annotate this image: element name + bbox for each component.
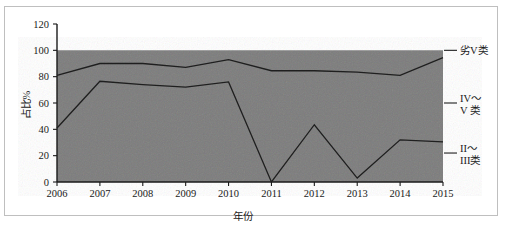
x-tick-labels: 2006200720082009201020112012201320142015 (47, 188, 454, 199)
x-tick-label: 2011 (261, 188, 282, 199)
legend-label-liev: 劣V类 (460, 44, 489, 56)
x-tick-label: 2014 (390, 188, 412, 199)
chart-figure: 020406080100120 200620072008200920102011… (0, 0, 506, 228)
legend-label-iv-v-line1: IV～ (460, 93, 482, 104)
x-axis-title: 年份 (233, 210, 254, 222)
y-axis-title: 占比% (20, 90, 32, 119)
x-tick-label: 2010 (218, 188, 239, 199)
area-chart: 020406080100120 200620072008200920102011… (0, 0, 506, 228)
x-tick-label: 2012 (304, 188, 325, 199)
x-tick-label: 2009 (175, 188, 196, 199)
x-tick-label: 2006 (47, 188, 68, 199)
y-tick-label: 120 (33, 19, 49, 30)
y-tick-labels: 020406080100120 (33, 19, 49, 188)
x-tick-label: 2013 (347, 188, 368, 199)
x-tick-label: 2007 (89, 188, 110, 199)
y-tick-label: 20 (39, 150, 50, 161)
y-tick-label: 60 (39, 98, 50, 109)
legend-label-iv-v-line2: V 类 (460, 104, 481, 116)
legend-label-ii-iii-line1: II～ (460, 143, 478, 154)
y-tick-label: 80 (39, 71, 50, 82)
legend: 劣V类 IV～ V 类 II～ III类 (444, 44, 489, 166)
x-tick-label: 2015 (433, 188, 454, 199)
y-tick-label: 100 (33, 45, 49, 56)
paper-grain-overlay (57, 50, 443, 182)
x-tick-label: 2008 (132, 188, 153, 199)
legend-label-ii-iii-line2: III类 (460, 154, 481, 166)
y-tick-label: 40 (39, 124, 50, 135)
stacked-area-fill (57, 50, 443, 182)
y-tick-label: 0 (44, 177, 49, 188)
